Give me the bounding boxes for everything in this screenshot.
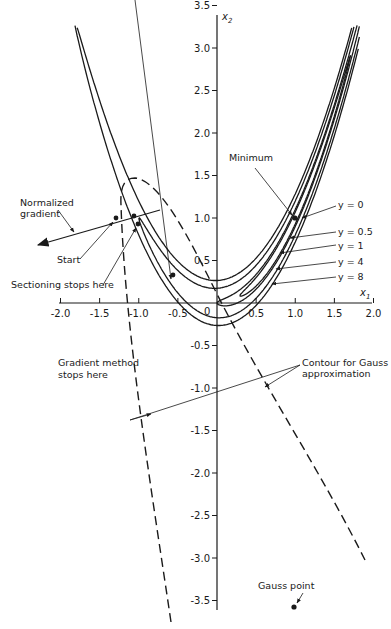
x-tick-label: 1.0 <box>287 308 303 319</box>
label-gauss-contour-1: Contour for Gauss <box>302 357 388 368</box>
y-tick-label: 1.0 <box>194 213 210 224</box>
x-tick-label: -1.0 <box>129 308 149 319</box>
label-gauss-point: Gauss point <box>258 580 315 591</box>
minimum-point <box>292 215 297 220</box>
rosenbrock-contour-chart: -2.0-1.5-1.0-0.50.51.01.52.0 x1 3.53.02.… <box>0 0 391 629</box>
label-y8: y = 8 <box>338 271 364 282</box>
label-y4: y = 4 <box>338 256 364 267</box>
y-tick-label: -1.5 <box>190 425 210 436</box>
label-gradient-method-1: Gradient method <box>58 357 139 368</box>
y-tick-label: 3.5 <box>194 0 210 11</box>
y-tick-label: 3.0 <box>194 43 210 54</box>
label-gradient-method-2: stops here <box>58 369 108 380</box>
start-point <box>114 216 119 221</box>
x-tick-label: 0.5 <box>248 308 264 319</box>
y-tick-label: 2.5 <box>194 85 210 96</box>
label-normalized-gradient-2: gradient <box>20 208 60 219</box>
y-tick-label: -0.5 <box>190 340 210 351</box>
y-tick-label: 2.0 <box>194 128 210 139</box>
y-tick-label: -3.5 <box>190 595 210 606</box>
label-gauss-contour-2: approximation <box>302 368 371 379</box>
label-y0: y = 0 <box>338 199 364 210</box>
x-tick-label: -1.5 <box>90 308 110 319</box>
gauss-point <box>291 604 296 609</box>
label-normalized-gradient-1: Normalized <box>20 197 74 208</box>
y-axis-title: x2 <box>221 11 233 25</box>
gauss-approximation-contour <box>121 178 365 622</box>
y-tick-label: -2.0 <box>190 468 210 479</box>
y-tick-label: -3.0 <box>190 553 210 564</box>
y-tick-label: -1.0 <box>190 383 210 394</box>
x-axis-title: x1 <box>359 287 370 301</box>
y-tick-label: 1.5 <box>194 170 210 181</box>
x-tick-label: 1.5 <box>326 308 342 319</box>
x-tick-label: -2.0 <box>51 308 71 319</box>
sectioning-stop-point <box>132 214 137 219</box>
sectioning-stop-point-2 <box>136 222 141 227</box>
y-axis: 3.53.02.52.01.51.00.5-0.5-1.0-1.5-2.0-2.… <box>190 0 232 610</box>
gradient-method-stop-point <box>171 273 176 278</box>
x-tick-label: 2.0 <box>366 308 382 319</box>
label-minimum: Minimum <box>229 152 273 163</box>
label-y1: y = 1 <box>338 240 364 251</box>
label-y05: y = 0.5 <box>338 226 373 237</box>
x-axis: -2.0-1.5-1.0-0.50.51.01.52.0 x1 <box>51 287 382 319</box>
label-start: Start <box>57 254 80 265</box>
label-sectioning: Sectioning stops here <box>11 279 114 290</box>
y-tick-label: -2.5 <box>190 510 210 521</box>
